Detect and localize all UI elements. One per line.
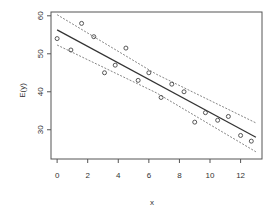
fitted-line <box>57 30 256 137</box>
regression-line <box>57 30 256 137</box>
x-tick-label: 6 <box>147 171 152 180</box>
data-point <box>170 82 174 86</box>
y-axis: 30405060 <box>36 11 51 134</box>
data-point <box>103 71 107 75</box>
x-axis: 024681012 <box>55 159 246 180</box>
confidence-band-line <box>57 45 256 152</box>
y-tick-label: 40 <box>36 87 45 96</box>
data-point <box>113 63 117 67</box>
x-tick-label: 10 <box>206 171 215 180</box>
data-point <box>80 21 84 25</box>
x-axis-label: x <box>150 198 154 207</box>
confidence-band-line <box>57 15 256 123</box>
x-tick-label: 8 <box>177 171 182 180</box>
x-tick-label: 12 <box>236 171 245 180</box>
data-point <box>239 133 243 137</box>
x-tick-label: 0 <box>55 171 60 180</box>
data-point <box>147 71 151 75</box>
x-tick-label: 4 <box>116 171 121 180</box>
x-tick-label: 2 <box>85 171 90 180</box>
data-point <box>124 46 128 50</box>
data-point <box>226 114 230 118</box>
y-tick-label: 50 <box>36 49 45 58</box>
data-point <box>216 118 220 122</box>
y-axis-label: E(y) <box>18 76 27 106</box>
scatter-plot: 30405060 024681012 <box>0 0 274 209</box>
data-point <box>193 120 197 124</box>
data-point <box>136 78 140 82</box>
data-point <box>203 111 207 115</box>
y-tick-label: 30 <box>36 125 45 134</box>
y-tick-label: 60 <box>36 11 45 20</box>
data-point <box>249 139 253 143</box>
data-point <box>55 37 59 41</box>
data-point <box>182 90 186 94</box>
